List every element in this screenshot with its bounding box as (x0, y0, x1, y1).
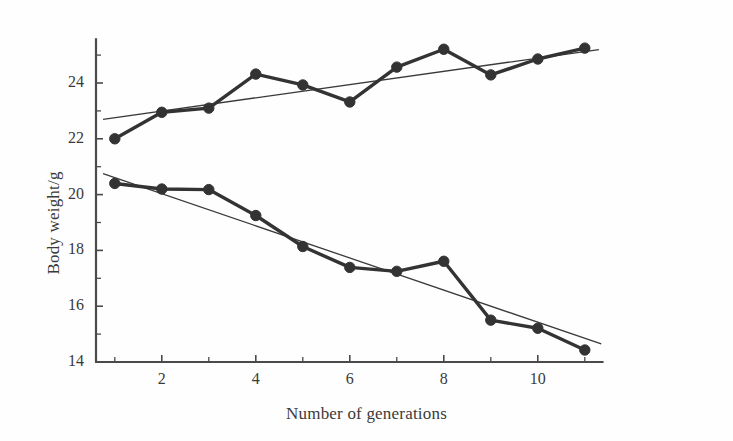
data-point-marker (251, 69, 261, 79)
y-tick-label: 24 (44, 73, 84, 91)
data-series (115, 48, 585, 350)
y-tick-label: 18 (44, 240, 84, 258)
y-tick-label: 16 (44, 296, 84, 314)
x-axis-title: Number of generations (0, 404, 733, 424)
data-point-marker (298, 80, 308, 90)
y-axis-title: Body weight/g (44, 73, 64, 373)
axis-ticks (96, 55, 585, 362)
downward-regression-line (103, 174, 601, 344)
data-point-marker (486, 70, 496, 80)
data-point-marker (392, 266, 402, 276)
data-point-marker (392, 62, 402, 72)
x-tick-label: 2 (142, 370, 182, 388)
x-tick-label: 4 (236, 370, 276, 388)
upward-regression-line (103, 50, 599, 120)
x-tick-label: 10 (518, 370, 558, 388)
data-point-marker (486, 315, 496, 325)
data-point-marker (157, 184, 167, 194)
data-point-marker (345, 97, 355, 107)
data-point-marker (345, 262, 355, 272)
trend-lines (103, 50, 601, 344)
data-point-marker (439, 44, 449, 54)
data-point-marker (157, 107, 167, 117)
chart-figure: Number of generations Body weight/g 1416… (0, 0, 733, 441)
y-tick-label: 22 (44, 129, 84, 147)
data-markers (110, 43, 590, 355)
x-tick-label: 6 (330, 370, 370, 388)
data-point-marker (110, 134, 120, 144)
y-tick-label: 20 (44, 185, 84, 203)
x-tick-label: 8 (424, 370, 464, 388)
data-point-marker (298, 241, 308, 251)
data-point-marker (533, 323, 543, 333)
data-point-marker (580, 43, 590, 53)
y-tick-label: 14 (44, 352, 84, 370)
axis-lines (95, 38, 604, 362)
data-point-marker (204, 184, 214, 194)
data-point-marker (439, 256, 449, 266)
data-point-marker (204, 103, 214, 113)
data-point-marker (533, 54, 543, 64)
data-point-marker (580, 345, 590, 355)
data-point-marker (110, 178, 120, 188)
data-point-marker (251, 210, 261, 220)
